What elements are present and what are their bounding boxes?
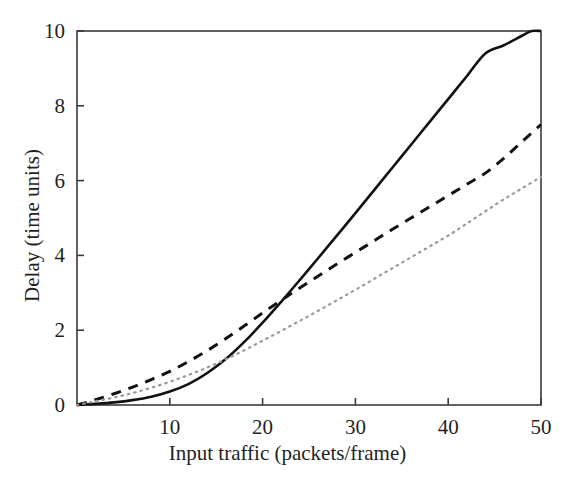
y-tick-label: 0 [10,395,65,416]
x-tick-label: 40 [438,417,459,438]
y-tick-label: 10 [10,21,65,42]
chart-plot [0,0,575,481]
figure-background [0,0,575,481]
x-axis-title: Input traffic (packets/frame) [0,441,575,466]
x-tick-label: 50 [531,417,552,438]
figure-canvas: 0246810 1020304050 Input traffic (packet… [0,0,575,481]
y-axis-title: Delay (time units) [20,111,45,341]
x-tick-label: 30 [345,417,366,438]
x-tick-label: 20 [252,417,273,438]
x-tick-label: 10 [159,417,180,438]
